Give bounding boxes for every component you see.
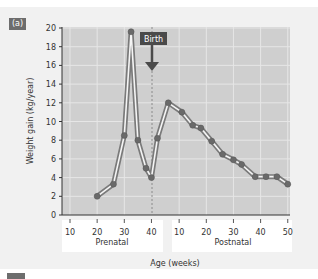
x-tick-label: 40 bbox=[256, 228, 266, 237]
x-tick-label: 10 bbox=[174, 228, 184, 237]
data-point bbox=[135, 137, 141, 143]
data-point bbox=[121, 133, 127, 139]
data-point bbox=[209, 138, 215, 144]
data-point bbox=[94, 193, 100, 199]
y-tick-label: 8 bbox=[51, 136, 56, 145]
data-point bbox=[252, 174, 258, 180]
data-point bbox=[110, 181, 116, 187]
data-point bbox=[148, 175, 154, 181]
data-point bbox=[198, 125, 204, 131]
x-tick-label: 50 bbox=[283, 228, 293, 237]
y-tick-label: 14 bbox=[46, 80, 56, 89]
data-point bbox=[179, 109, 185, 115]
weight-gain-chart: 02468101214161820102030401020304050 Birt… bbox=[0, 0, 318, 279]
x-tick-label: 30 bbox=[119, 228, 129, 237]
data-point bbox=[165, 100, 171, 106]
y-tick-label: 2 bbox=[51, 192, 56, 201]
postnatal-label: Postnatal bbox=[215, 238, 252, 247]
data-point bbox=[274, 174, 280, 180]
bottom-tab bbox=[7, 273, 25, 279]
y-tick-label: 10 bbox=[46, 118, 56, 127]
x-axis-label: Age (weeks) bbox=[150, 259, 199, 268]
birth-label: Birth bbox=[144, 35, 163, 44]
data-point bbox=[220, 151, 226, 157]
data-point bbox=[154, 135, 160, 141]
y-tick-label: 18 bbox=[46, 43, 56, 52]
data-point bbox=[230, 157, 236, 163]
y-tick-label: 4 bbox=[51, 174, 56, 183]
data-point bbox=[143, 165, 149, 171]
y-tick-label: 12 bbox=[46, 99, 56, 108]
y-axis-label: Weight gain (kg/year) bbox=[26, 78, 35, 165]
y-tick-label: 6 bbox=[51, 155, 56, 164]
x-tick-label: 30 bbox=[228, 228, 238, 237]
data-point bbox=[239, 162, 245, 168]
y-tick-label: 0 bbox=[51, 211, 56, 220]
x-tick-label: 40 bbox=[146, 228, 156, 237]
data-point bbox=[285, 181, 291, 187]
y-tick-label: 16 bbox=[46, 61, 56, 70]
data-point bbox=[190, 122, 196, 128]
data-point bbox=[128, 29, 134, 35]
data-point bbox=[263, 174, 269, 180]
x-tick-label: 20 bbox=[92, 228, 102, 237]
x-tick-label: 10 bbox=[65, 228, 75, 237]
y-tick-label: 20 bbox=[46, 24, 56, 33]
prenatal-label: Prenatal bbox=[96, 238, 129, 247]
x-tick-label: 20 bbox=[201, 228, 211, 237]
